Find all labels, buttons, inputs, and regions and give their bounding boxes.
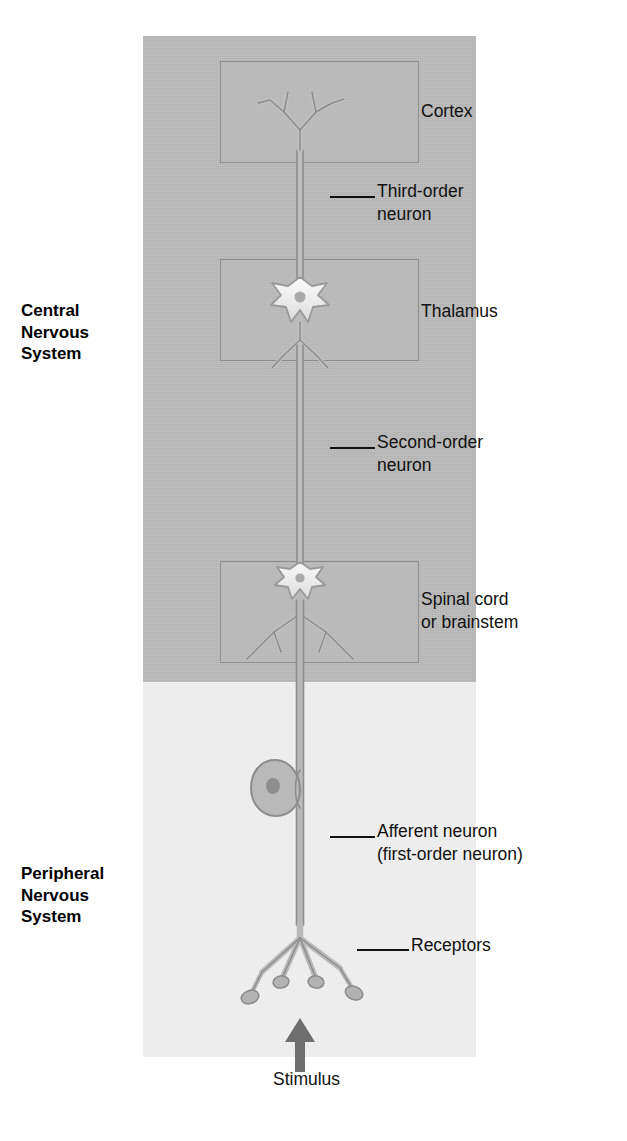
third-order-neuron-label: Third-order neuron: [377, 180, 464, 226]
pns-label-line2: Nervous: [21, 885, 104, 907]
pns-label-line1: Peripheral: [21, 863, 104, 885]
spinal-cord-label: Spinal cord or brainstem: [421, 588, 518, 634]
cns-label-line2: Nervous: [21, 322, 89, 344]
thalamus-label: Thalamus: [421, 300, 498, 323]
afferent-leader-line: [330, 836, 375, 838]
paper-texture: [143, 682, 476, 1057]
third-order-label-line2: neuron: [377, 203, 464, 226]
cortex-label-text: Cortex: [421, 100, 473, 123]
second-order-leader-line: [330, 447, 375, 449]
cns-label-line1: Central: [21, 300, 89, 322]
second-order-neuron-label: Second-order neuron: [377, 431, 483, 477]
pns-label-line3: System: [21, 906, 104, 928]
spinal-cord-label-line2: or brainstem: [421, 611, 518, 634]
third-order-leader-line: [330, 196, 375, 198]
second-order-label-line1: Second-order: [377, 431, 483, 454]
thalamus-box: [220, 259, 419, 361]
second-order-label-line2: neuron: [377, 454, 483, 477]
cortex-label: Cortex: [421, 100, 473, 123]
afferent-neuron-label: Afferent neuron (first-order neuron): [377, 820, 523, 866]
peripheral-nervous-system-label: Peripheral Nervous System: [21, 863, 104, 928]
cortex-box: [220, 61, 419, 163]
third-order-label-line1: Third-order: [377, 180, 464, 203]
cns-label-line3: System: [21, 343, 89, 365]
stimulus-label-text: Stimulus: [273, 1068, 340, 1091]
receptors-label: Receptors: [411, 934, 491, 957]
spinal-cord-box: [220, 561, 419, 663]
afferent-label-line1: Afferent neuron: [377, 820, 523, 843]
peripheral-nervous-system-region: [143, 682, 476, 1057]
receptors-label-text: Receptors: [411, 934, 491, 957]
thalamus-label-text: Thalamus: [421, 300, 498, 323]
stimulus-label: Stimulus: [273, 1068, 340, 1091]
central-nervous-system-label: Central Nervous System: [21, 300, 89, 365]
afferent-label-line2: (first-order neuron): [377, 843, 523, 866]
diagram-canvas: Cortex Thalamus Spinal cord or brainstem…: [0, 0, 627, 1141]
receptors-leader-line: [357, 949, 409, 951]
spinal-cord-label-line1: Spinal cord: [421, 588, 518, 611]
